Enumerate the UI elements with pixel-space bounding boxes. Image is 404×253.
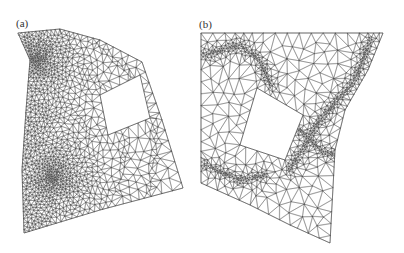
panel-b-mesh: [201, 33, 383, 243]
mesh-hole: [240, 88, 303, 160]
panel-a-label: (a): [16, 18, 28, 29]
mesh-edges: [18, 29, 183, 233]
panel-b-label: (b): [199, 19, 212, 30]
mesh-figure: (a) (b): [0, 0, 404, 253]
mesh-canvas: [0, 0, 404, 253]
panel-a-mesh: [18, 29, 183, 233]
